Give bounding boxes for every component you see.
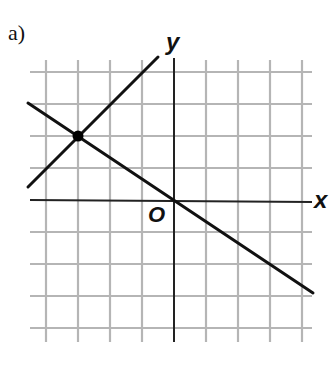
intersection-point: [73, 131, 84, 142]
x-axis-label: x: [314, 186, 327, 214]
y-axis-label: y: [166, 28, 179, 56]
origin-label: O: [148, 202, 165, 228]
